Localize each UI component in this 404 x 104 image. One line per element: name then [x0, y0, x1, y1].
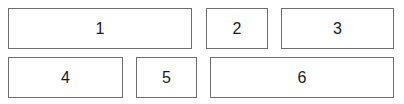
box-2: 2	[206, 8, 268, 49]
box-6: 6	[210, 57, 394, 98]
box-5-label: 5	[162, 70, 171, 86]
box-1-label: 1	[96, 21, 105, 37]
box-4: 4	[8, 57, 123, 98]
box-3-label: 3	[333, 21, 342, 37]
box-6-label: 6	[298, 70, 307, 86]
box-1: 1	[8, 8, 192, 49]
box-2-label: 2	[233, 21, 242, 37]
box-4-label: 4	[61, 70, 70, 86]
box-3: 3	[281, 8, 394, 49]
box-5: 5	[136, 57, 197, 98]
